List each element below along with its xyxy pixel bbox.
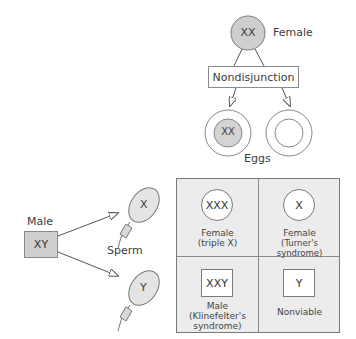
genotype-square: Y xyxy=(283,269,315,297)
egg-right xyxy=(266,110,312,156)
offspring-condition: (Klinefelter's xyxy=(177,311,258,321)
offspring-cell-turner: X Female (Turner's syndrome) xyxy=(259,179,340,256)
connector-line xyxy=(234,49,242,66)
sperm-x-genotype: X xyxy=(140,198,148,211)
genotype-circle: X xyxy=(283,189,315,221)
arrow-to-egg-left xyxy=(230,88,236,106)
offspring-condition: (triple X) xyxy=(177,238,258,248)
sperm-x xyxy=(118,182,166,248)
offspring-condition-cont: syndrome) xyxy=(177,321,258,331)
male-box: XY xyxy=(24,231,58,258)
offspring-cell-triple-x: XXX Female (triple X) xyxy=(177,179,258,256)
genotype-circle: XXX xyxy=(201,189,233,221)
offspring-grid: XXX Female (triple X) X Female (Turner's… xyxy=(176,178,340,333)
eggs-label: Eggs xyxy=(244,152,271,165)
sperm-y-genotype: Y xyxy=(140,281,147,294)
male-label: Male xyxy=(27,215,53,228)
genotype-square: XXY xyxy=(201,269,233,297)
arrow-to-egg-right xyxy=(282,88,290,106)
female-genotype: XX xyxy=(239,26,257,39)
sperm-label: Sperm xyxy=(107,244,143,257)
offspring-cell-nonviable: Y Nonviable xyxy=(259,257,340,333)
offspring-status: Nonviable xyxy=(259,307,340,317)
female-label: Female xyxy=(273,26,313,39)
arrow-to-sperm-x xyxy=(58,213,118,236)
offspring-sex: Female xyxy=(177,228,258,238)
connector-line xyxy=(255,49,264,66)
egg-left-genotype: XX xyxy=(219,126,237,137)
nondisjunction-box: Nondisjunction xyxy=(208,66,299,88)
sperm-y xyxy=(118,265,166,331)
offspring-cell-klinefelter: XXY Male (Klinefelter's syndrome) xyxy=(177,257,258,333)
offspring-sex: Female xyxy=(259,228,340,238)
offspring-condition: (Turner's syndrome) xyxy=(257,238,342,258)
offspring-sex: Male xyxy=(177,301,258,311)
